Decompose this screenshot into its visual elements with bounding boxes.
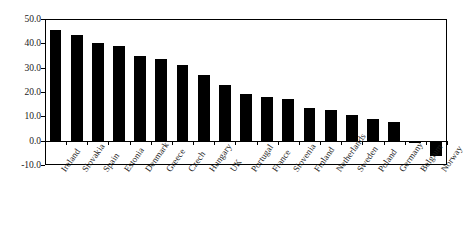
bar xyxy=(282,99,294,140)
x-axis-tick-mark xyxy=(87,141,88,145)
bar xyxy=(113,46,125,141)
x-axis-tick-mark xyxy=(405,141,406,145)
bar xyxy=(261,97,273,141)
bar xyxy=(50,30,62,141)
x-axis-tick-mark xyxy=(299,141,300,145)
x-axis-tick-mark xyxy=(341,141,342,145)
x-axis-tick-mark xyxy=(193,141,194,145)
bar xyxy=(71,35,83,141)
bar xyxy=(134,56,146,141)
bar xyxy=(92,43,104,140)
bar xyxy=(388,122,400,140)
x-axis-tick-mark xyxy=(130,141,131,145)
bar xyxy=(325,110,337,140)
bar xyxy=(240,94,252,140)
bar xyxy=(155,59,167,141)
bar xyxy=(304,108,316,141)
x-axis-tick-mark xyxy=(66,141,67,145)
x-axis-tick-mark xyxy=(278,141,279,145)
bar xyxy=(177,65,189,140)
bar xyxy=(219,85,231,141)
bar xyxy=(198,75,210,141)
x-axis-tick-mark xyxy=(320,141,321,145)
x-axis-tick-mark xyxy=(257,141,258,145)
x-axis-tick-mark xyxy=(151,141,152,145)
x-axis-tick-mark xyxy=(426,141,427,145)
x-axis-tick-mark xyxy=(172,141,173,145)
x-axis-tick-mark xyxy=(447,141,448,145)
x-axis-tick-mark xyxy=(235,141,236,145)
x-axis-tick-mark xyxy=(384,141,385,145)
x-axis-tick-mark xyxy=(214,141,215,145)
bar xyxy=(367,119,379,141)
x-axis-tick-mark xyxy=(108,141,109,145)
